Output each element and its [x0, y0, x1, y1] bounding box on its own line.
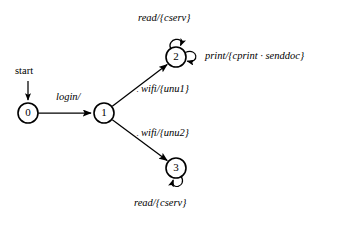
edge-label-login: login/ — [56, 92, 81, 103]
edge-1-to-3 — [112, 120, 167, 161]
edge-label-wifi-unu2: wifi/{unu2} — [141, 128, 189, 139]
state-label-2: 2 — [173, 50, 179, 62]
edge-tick-upper: · — [136, 87, 139, 96]
start-label: start — [15, 66, 33, 77]
edge-label-read-cserv-bottom: read/{cserv} — [134, 198, 186, 209]
state-label-3: 3 — [173, 161, 179, 173]
edge-tick-lower: · — [136, 131, 139, 140]
edge-label-read-cserv-top: read/{cserv} — [138, 13, 190, 24]
fsm-canvas: 0 1 2 3 — [0, 0, 341, 225]
self-loop-state-2-right — [185, 51, 196, 61]
fsm-diagram: 0 1 2 3 start login/ · wifi/{unu1} · wif… — [0, 0, 341, 225]
edge-label-wifi-unu1: wifi/{unu1} — [141, 84, 189, 95]
state-label-0: 0 — [25, 106, 31, 118]
state-label-1: 1 — [101, 106, 107, 118]
edge-label-print-cprint-senddoc: print/{cprint · senddoc} — [205, 51, 304, 62]
